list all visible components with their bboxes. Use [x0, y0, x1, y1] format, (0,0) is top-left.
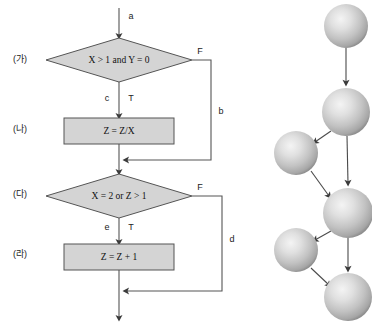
graph-sphere-5[interactable] — [274, 228, 318, 272]
edge-label-d: d — [229, 234, 234, 244]
edge-label-c: c — [105, 93, 110, 103]
graph-sphere-1[interactable] — [324, 4, 368, 48]
edge-label-f-1: F — [197, 46, 203, 56]
side-label-ra: (라) — [13, 249, 27, 259]
decision-node-2-label: X = 2 or Z > 1 — [91, 191, 146, 201]
side-label-da: (다) — [13, 189, 27, 199]
graph-sphere-6[interactable] — [324, 273, 372, 321]
edge-label-t-1: T — [128, 93, 134, 103]
graph-sphere-4[interactable] — [323, 188, 372, 238]
decision-node-1-label: X > 1 and Y = 0 — [88, 55, 149, 65]
graph-nodes — [274, 4, 372, 321]
graph-sphere-2[interactable] — [322, 88, 370, 136]
figure-canvas: X > 1 and Y = 0 Z = Z/X X = 2 or Z > 1 Z… — [0, 0, 372, 327]
edge-label-e: e — [104, 222, 109, 232]
process-node-2-label: Z = Z + 1 — [101, 252, 138, 262]
side-label-ga: (가) — [13, 54, 27, 64]
edge-label-a: a — [128, 11, 133, 21]
figure-root: X > 1 and Y = 0 Z = Z/X X = 2 or Z > 1 Z… — [0, 0, 372, 327]
process-node-1-label: Z = Z/X — [103, 126, 134, 136]
edge-label-f-2: F — [197, 182, 203, 192]
side-label-na: (나) — [13, 124, 27, 134]
graph-edge-2-4 — [347, 136, 348, 183]
edge-label-b: b — [218, 106, 223, 116]
flowchart-side-labels: (가) (나) (다) (라) — [13, 54, 27, 259]
graph-edge-4-5 — [315, 231, 331, 240]
graph-edge-5-6 — [311, 268, 329, 285]
graph-sphere-3[interactable] — [274, 131, 318, 175]
graph-edge-2-3 — [315, 131, 331, 142]
graph-edge-3-4 — [311, 171, 329, 196]
edge-label-t-2: T — [128, 222, 134, 232]
